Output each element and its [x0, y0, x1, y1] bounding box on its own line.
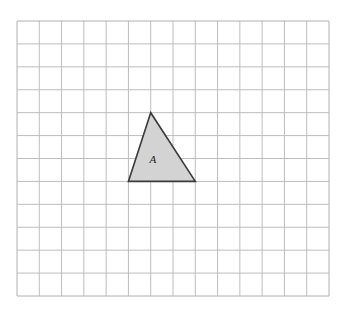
- grid-diagram: A: [0, 0, 343, 314]
- shapes-layer: A: [128, 113, 195, 182]
- triangle-a-label: A: [149, 153, 157, 165]
- triangle-a: [128, 113, 195, 182]
